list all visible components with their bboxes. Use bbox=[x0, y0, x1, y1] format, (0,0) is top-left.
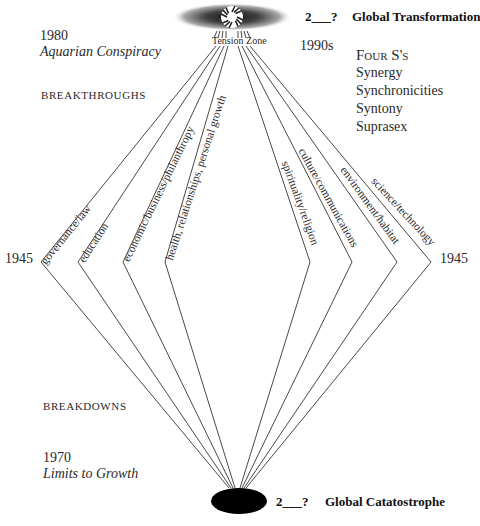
four-s-item: Syntony bbox=[356, 100, 443, 118]
strand-culture bbox=[242, 46, 352, 488]
four-s-item: Synchronicities bbox=[356, 82, 443, 100]
year-1945-left: 1945 bbox=[5, 251, 33, 267]
bottom-outcome-label: Global Catatostrophe bbox=[325, 494, 445, 509]
top-outcome: 2___? Global Transformation bbox=[305, 9, 480, 25]
book-limits-to-growth: Limits to Growth bbox=[43, 466, 138, 482]
tension-zone-label: Tension Zone bbox=[212, 35, 267, 46]
top-outcome-label: Global Transformation bbox=[352, 9, 480, 24]
catastrophe-blob-icon bbox=[211, 488, 267, 514]
four-s-title: Four S's bbox=[356, 46, 443, 64]
year-1945-right: 1945 bbox=[440, 251, 468, 267]
year-1990s: 1990s bbox=[300, 38, 333, 54]
strand-education bbox=[78, 46, 231, 488]
four-s-item: Suprasex bbox=[356, 118, 443, 136]
year-1980: 1980 bbox=[40, 28, 68, 44]
breakthroughs-label: BREAKTHROUGHS bbox=[41, 89, 146, 101]
bottom-outcome-year: 2___? bbox=[276, 494, 309, 509]
year-1970: 1970 bbox=[43, 450, 71, 466]
four-s-item: Synergy bbox=[356, 64, 443, 82]
sun-icon bbox=[221, 6, 243, 28]
strand-health bbox=[165, 46, 235, 488]
top-outcome-year: 2___? bbox=[305, 9, 338, 24]
book-aquarian-conspiracy: Aquarian Conspiracy bbox=[40, 44, 161, 60]
breakdowns-label: BREAKDOWNS bbox=[43, 400, 127, 412]
four-s-block: Four S's Synergy Synchronicities Syntony… bbox=[356, 46, 443, 136]
bottom-outcome: 2___? Global Catatostrophe bbox=[276, 494, 445, 510]
